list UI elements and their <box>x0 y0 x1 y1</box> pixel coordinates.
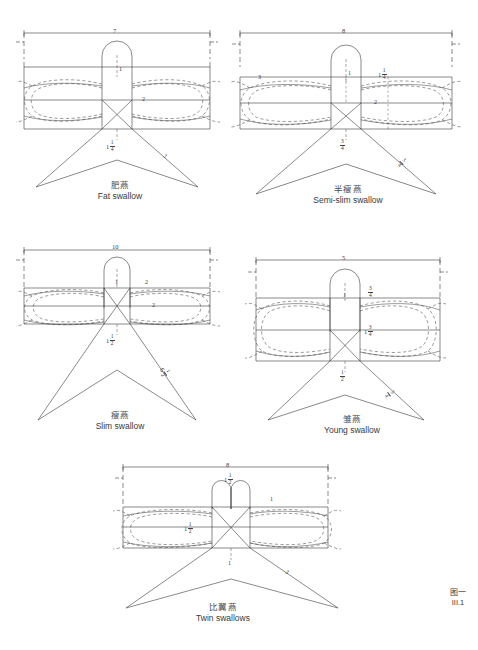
dim-top-width: 5 <box>342 254 345 261</box>
figure-young-swallow: 5 1 34 1 34 12 34 雏燕 Young swallow <box>238 248 466 446</box>
dim-center: 12 <box>340 370 345 382</box>
dim-wing: 2 <box>142 96 145 102</box>
caption-fat-swallow: 肥燕 Fat swallow <box>14 180 226 201</box>
dim-head: 1 <box>343 292 346 298</box>
dim-head-side: 34 <box>368 286 373 298</box>
dim-center: 1 12 <box>106 334 115 346</box>
dim-head-side: 2 <box>145 279 148 285</box>
plate-number: 图一 III.1 <box>450 588 466 608</box>
caption-cn: 比翼燕 <box>98 602 348 613</box>
dim-wing: 2 <box>152 302 155 308</box>
caption-cn: 瘦燕 <box>14 410 226 421</box>
dim-head-side: 1 14 <box>378 68 387 80</box>
plate-number-value: III.1 <box>450 598 466 608</box>
caption-semi-slim-swallow: 半瘦燕 Semi-slim swallow <box>228 184 468 205</box>
caption-cn: 雏燕 <box>238 414 466 425</box>
caption-slim-swallow: 瘦燕 Slim swallow <box>14 410 226 431</box>
caption-en: Fat swallow <box>14 191 226 202</box>
dim-top-width: 8 <box>342 27 345 34</box>
caption-cn: 肥燕 <box>14 180 226 191</box>
caption-young-swallow: 雏燕 Young swallow <box>238 414 466 435</box>
dim-top-width: 7 <box>113 27 116 34</box>
dim-center: 34 <box>340 139 345 151</box>
figure-twin-swallows: 8 1 12 1 1 12 1 3 比翼燕 Twin swallows <box>98 456 348 636</box>
dim-top-width: 8 <box>226 461 229 468</box>
dim-head: 1 <box>119 66 122 72</box>
caption-cn: 半瘦燕 <box>228 184 468 195</box>
figure-slim-swallow: 10 1 2 2 1 12 6 12 瘦燕 Slim swallow <box>14 242 226 442</box>
dim-head: 1 <box>115 279 118 285</box>
dim-center: 1 <box>228 560 231 566</box>
plate-number-cn: 图一 <box>450 588 466 598</box>
dim-wing: 1 12 <box>184 522 193 534</box>
dim-wing: 2 <box>374 99 377 105</box>
drawing-page: 7 1 2 1 14 3 肥燕 Fat swallow <box>0 0 478 650</box>
dim-wing: 1 34 <box>364 325 373 337</box>
dim-head: 1 <box>348 70 351 76</box>
dim-wing-left: 3 <box>258 74 261 80</box>
dim-top-width: 10 <box>112 243 119 250</box>
figure-semi-slim-swallow: 8 1 1 14 3 2 34 34 半瘦燕 Semi-slim swallow <box>228 22 468 217</box>
dim-center: 1 14 <box>106 140 115 152</box>
caption-twin-swallows: 比翼燕 Twin swallows <box>98 602 348 623</box>
caption-en: Slim swallow <box>14 421 226 432</box>
dim-head-top: 1 12 <box>224 473 233 485</box>
dim-head-side: 1 <box>270 496 273 502</box>
caption-en: Young swallow <box>238 425 466 436</box>
caption-en: Twin swallows <box>98 613 348 624</box>
figure-fat-swallow: 7 1 2 1 14 3 肥燕 Fat swallow <box>14 22 226 217</box>
caption-en: Semi-slim swallow <box>228 195 468 206</box>
